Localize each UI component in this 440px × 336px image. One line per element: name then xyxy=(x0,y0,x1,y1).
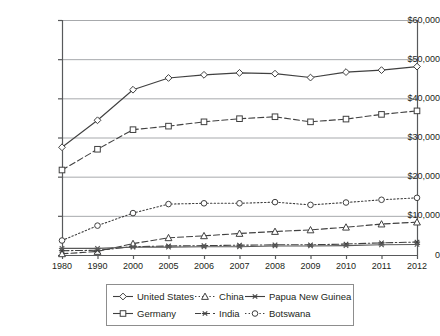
marker-circle xyxy=(272,199,278,205)
legend-column: Papua New GuineaBotswana xyxy=(244,288,351,322)
legend-marker-asterisk xyxy=(194,308,216,319)
legend-item-germany[interactable]: Germany xyxy=(112,305,194,322)
marker-diamond xyxy=(165,75,172,82)
marker-diamond xyxy=(414,63,421,70)
data-point-marker xyxy=(165,75,172,82)
marker-circle xyxy=(130,210,136,216)
marker-square xyxy=(120,311,126,317)
legend-marker-asterisk xyxy=(244,291,266,302)
marker-diamond xyxy=(272,70,279,77)
legend-item-botswana[interactable]: Botswana xyxy=(244,305,351,322)
data-point-marker xyxy=(130,127,136,133)
x-axis-tick-labels: 1980199020002005200620072008200920102011… xyxy=(0,262,440,276)
data-point-marker xyxy=(237,116,243,122)
data-point-marker xyxy=(308,119,314,125)
marker-circle xyxy=(414,195,420,201)
marker-circle xyxy=(252,311,258,317)
gridlines xyxy=(62,21,417,256)
legend-item-label: Papua New Guinea xyxy=(269,291,351,302)
data-point-marker xyxy=(379,197,385,203)
line-chart: $60,000$50,000$40,000$30,000$20,000$10,0… xyxy=(0,0,440,336)
x-axis-tick-label: 1990 xyxy=(81,262,115,271)
marker-square xyxy=(166,123,172,129)
legend-item-india[interactable]: India xyxy=(194,305,244,322)
legend-item-china[interactable]: China xyxy=(194,288,244,305)
marker-diamond xyxy=(307,74,314,81)
marker-circle xyxy=(237,201,243,207)
x-axis-tick-label: 2009 xyxy=(294,262,328,271)
data-point-marker xyxy=(272,199,278,205)
marker-square xyxy=(272,114,278,120)
legend-item-united-states[interactable]: United States xyxy=(112,288,194,305)
marker-circle xyxy=(59,238,65,244)
data-point-marker xyxy=(307,74,314,81)
data-point-marker xyxy=(414,63,421,70)
data-point-marker xyxy=(95,223,101,229)
data-point-marker xyxy=(59,238,65,244)
legend-item-label: India xyxy=(219,308,240,319)
x-axis-tick-label: 2011 xyxy=(365,262,399,271)
marker-circle xyxy=(343,200,349,206)
marker-diamond xyxy=(236,69,243,76)
data-point-marker xyxy=(166,123,172,129)
data-point-marker xyxy=(308,202,314,208)
data-point-marker xyxy=(378,67,385,74)
data-point-marker xyxy=(201,71,208,78)
legend-marker-square xyxy=(112,308,134,319)
legend-item-label: Germany xyxy=(137,308,176,319)
plot-area-wrapper xyxy=(0,0,440,272)
data-point-marker xyxy=(120,311,126,317)
y-axis-tick-label: $40,000 xyxy=(386,94,440,103)
series-line xyxy=(62,67,417,148)
legend-item-label: Botswana xyxy=(269,308,311,319)
marker-square xyxy=(414,108,420,114)
marker-square xyxy=(130,127,136,133)
y-axis-tick-label: $50,000 xyxy=(386,55,440,64)
data-point-marker xyxy=(343,200,349,206)
series-china xyxy=(59,219,421,257)
x-axis-tick-label: 2008 xyxy=(258,262,292,271)
data-point-marker xyxy=(166,201,172,207)
data-point-marker xyxy=(201,201,207,207)
data-point-marker xyxy=(272,114,278,120)
marker-square xyxy=(343,116,349,122)
legend-marker-diamond xyxy=(112,291,134,302)
marker-square xyxy=(59,167,65,173)
data-point-marker xyxy=(252,294,258,298)
data-point-marker xyxy=(343,116,349,122)
data-point-marker xyxy=(201,119,207,125)
y-axis-tick-label: 0 xyxy=(386,251,440,260)
marker-circle xyxy=(166,201,172,207)
data-point-marker xyxy=(252,311,258,317)
marker-circle xyxy=(379,197,385,203)
marker-square xyxy=(201,119,207,125)
marker-diamond xyxy=(378,67,385,74)
data-point-marker xyxy=(379,112,385,118)
x-axis-tick-label: 2000 xyxy=(116,262,150,271)
legend-marker-circle xyxy=(244,308,266,319)
data-point-marker xyxy=(343,69,350,76)
data-point-marker xyxy=(237,201,243,207)
y-axis-tick-label: $30,000 xyxy=(386,133,440,142)
data-point-marker xyxy=(59,167,65,173)
data-point-marker xyxy=(130,210,136,216)
legend-column: United StatesGermany xyxy=(112,288,194,322)
y-axis-tick-label: $60,000 xyxy=(386,16,440,25)
x-axis-tick-label: 2006 xyxy=(187,262,221,271)
marker-circle xyxy=(95,223,101,229)
x-axis-tick-label: 2005 xyxy=(152,262,186,271)
legend-item-label: United States xyxy=(137,291,194,302)
data-point-marker xyxy=(414,195,420,201)
axes xyxy=(58,20,418,259)
data-point-marker xyxy=(414,108,420,114)
marker-diamond xyxy=(120,293,127,300)
x-axis-tick-label: 1980 xyxy=(45,262,79,271)
legend-column: ChinaIndia xyxy=(194,288,244,322)
marker-circle xyxy=(201,201,207,207)
marker-square xyxy=(237,116,243,122)
legend-marker-triangle xyxy=(194,291,216,302)
marker-square xyxy=(95,146,101,152)
chart-legend: United StatesGermanyChinaIndiaPapua New … xyxy=(106,284,354,326)
marker-diamond xyxy=(201,71,208,78)
legend-item-papua-new-guinea[interactable]: Papua New Guinea xyxy=(244,288,351,305)
